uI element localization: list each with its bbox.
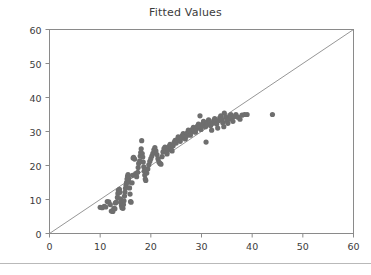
scatter-point xyxy=(221,124,226,129)
scatter-plot-canvas xyxy=(0,0,371,275)
scatter-point xyxy=(158,162,163,167)
scatter-point xyxy=(112,206,117,211)
scatter-point xyxy=(209,128,214,133)
scatter-point xyxy=(170,148,175,153)
scatter-point xyxy=(159,154,164,159)
scatter-point xyxy=(141,160,146,165)
scatter-point xyxy=(139,138,144,143)
scatter-point xyxy=(203,139,208,144)
scatter-point xyxy=(132,156,137,161)
y-tick-label: 20 xyxy=(8,160,42,171)
scatter-point xyxy=(139,146,144,151)
scatter-point xyxy=(127,191,132,196)
scatter-point xyxy=(121,198,126,203)
x-tick-label: 50 xyxy=(297,241,309,252)
y-tick-label: 40 xyxy=(8,92,42,103)
scatter-point xyxy=(114,200,119,205)
scatter-point xyxy=(245,112,250,117)
x-tick-label: 60 xyxy=(347,241,359,252)
y-tick-label: 50 xyxy=(8,58,42,69)
x-tick-label: 20 xyxy=(145,241,157,252)
scatter-point xyxy=(127,185,132,190)
scatter-point xyxy=(129,180,134,185)
scatter-point xyxy=(134,174,139,179)
y-axis-ticks xyxy=(46,30,50,234)
y-tick-label: 10 xyxy=(8,194,42,205)
scatter-points xyxy=(98,111,275,214)
y-tick-label: 60 xyxy=(8,24,42,35)
chart-figure: Fitted Values 0102030405060 010203040506… xyxy=(0,0,371,275)
scatter-point xyxy=(103,204,108,209)
x-tick-label: 10 xyxy=(94,241,106,252)
x-tick-label: 0 xyxy=(46,241,52,252)
scatter-point xyxy=(215,126,220,131)
scatter-point xyxy=(270,112,275,117)
x-axis-ticks xyxy=(50,234,354,238)
bottom-divider xyxy=(0,263,371,264)
x-tick-label: 30 xyxy=(195,241,207,252)
y-tick-label: 30 xyxy=(8,126,42,137)
scatter-point xyxy=(230,119,235,124)
scatter-point xyxy=(135,170,140,175)
scatter-point xyxy=(197,113,202,118)
x-tick-label: 40 xyxy=(246,241,258,252)
y-tick-label: 0 xyxy=(8,228,42,239)
scatter-point xyxy=(140,154,145,159)
scatter-point xyxy=(117,190,122,195)
scatter-point xyxy=(128,200,133,205)
scatter-point xyxy=(143,178,148,183)
